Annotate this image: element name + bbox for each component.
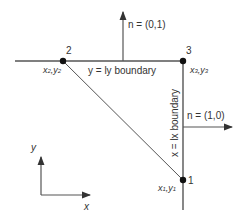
x-axis-label: x: [84, 202, 89, 212]
right-boundary-label: x = lx boundary: [170, 89, 180, 157]
diagram-canvas: [0, 0, 243, 218]
point-2-label: 2: [66, 46, 72, 56]
point-2: [60, 58, 66, 64]
normal-right-label: n = (1,0): [187, 111, 225, 121]
point-3-coords: x3,y3: [190, 66, 208, 75]
point-2-coords: x2,y2: [43, 66, 61, 75]
point-3: [180, 58, 186, 64]
y-axis-label: y: [31, 143, 36, 153]
point-3-label: 3: [186, 46, 192, 56]
point-1-label: 1: [188, 176, 194, 186]
point-1: [180, 177, 186, 183]
diagonal-edge: [63, 61, 183, 180]
top-boundary-label: y = ly boundary: [88, 66, 156, 76]
normal-top-label: n = (0,1): [128, 20, 166, 30]
point-1-coords: x1,y1: [158, 184, 176, 193]
